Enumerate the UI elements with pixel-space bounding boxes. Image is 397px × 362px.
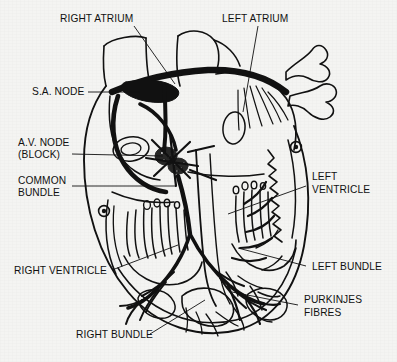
pulmonary-vein-upper xyxy=(286,46,330,82)
heart-drawing xyxy=(84,31,336,333)
label-left-ventricle-1: LEFT xyxy=(312,171,337,182)
label-sa-node: S.A. NODE xyxy=(32,86,85,97)
aorta-trunk xyxy=(177,36,180,86)
label-left-ventricle-2: VENTRICLE xyxy=(312,184,370,195)
label-common-bundle-2: BUNDLE xyxy=(18,187,60,198)
label-av-node-2: (BLOCK) xyxy=(18,149,60,160)
label-av-node-1: A.V. NODE xyxy=(18,137,70,148)
svc-top-rim xyxy=(104,36,146,46)
right-bundle-branch xyxy=(128,234,190,308)
label-purkinjes-1: PURKINJES xyxy=(304,294,362,305)
leader-left-ventricle xyxy=(228,186,306,214)
sa-node xyxy=(122,80,179,102)
internodal-pathway xyxy=(113,96,166,192)
anterior-internodal xyxy=(164,86,166,152)
left-ventricle-wall-inner xyxy=(288,140,295,238)
left-bundle-branch xyxy=(190,234,264,304)
label-purkinjes-2: FIBRES xyxy=(304,307,342,318)
label-right-atrium: RIGHT ATRIUM xyxy=(60,13,133,24)
coronary-ostium-right xyxy=(99,206,110,217)
rv-endocardial-ridge xyxy=(113,206,122,266)
left-atrium-outline xyxy=(216,72,296,150)
aorta-outer xyxy=(178,31,219,72)
right-ventricle-papillary-tips xyxy=(144,199,180,209)
label-left-bundle: LEFT BUNDLE xyxy=(312,261,382,272)
leader-left-atrium xyxy=(243,26,258,112)
label-right-bundle: RIGHT BUNDLE xyxy=(76,329,153,340)
label-common-bundle-1: COMMON xyxy=(18,175,66,186)
pulmonary-vein-lower xyxy=(288,84,336,119)
fossa-ovalis-inner xyxy=(120,142,141,157)
left-atrium-oval xyxy=(221,111,246,145)
heart-conduction-diagram: RIGHT ATRIUMLEFT ATRIUMS.A. NODEA.V. NOD… xyxy=(0,0,397,362)
right-ventricle-trabeculae xyxy=(127,206,188,258)
label-right-ventricle: RIGHT VENTRICLE xyxy=(14,265,107,276)
label-left-atrium: LEFT ATRIUM xyxy=(222,13,288,24)
